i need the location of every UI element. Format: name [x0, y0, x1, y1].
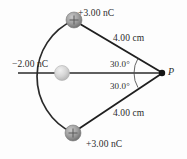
point-p-label: P — [168, 66, 174, 77]
field-point-marker — [159, 70, 165, 76]
left-charge-label: −2.00 nC — [12, 59, 48, 69]
top-angle-label: 30.0° — [110, 59, 130, 69]
diagram-canvas — [0, 0, 187, 159]
top-distance-label: 4.00 cm — [113, 33, 144, 43]
bottom-distance-label: 4.00 cm — [113, 108, 144, 118]
top-charge-label: +3.00 nC — [78, 8, 114, 18]
angle-arc-bottom — [134, 73, 138, 88]
bottom-angle-label: 30.0° — [110, 81, 130, 91]
bottom-charge-label: +3.00 nC — [86, 139, 122, 149]
left-charge-sphere — [55, 66, 70, 81]
angle-arc-top — [134, 58, 138, 73]
physics-diagram: +3.00 nC −2.00 nC +3.00 nC 4.00 cm 4.00 … — [0, 0, 187, 159]
